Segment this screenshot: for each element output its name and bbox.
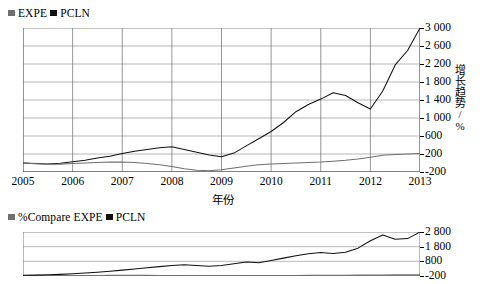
legend-swatch-sub-pcln-icon xyxy=(106,214,113,220)
legend-swatch-compare-expe-icon xyxy=(8,214,15,220)
y-tick-label: 200 xyxy=(425,148,442,160)
legend-main: EXPE PCLN xyxy=(8,7,90,19)
x-tick-label: 2007 xyxy=(100,176,144,188)
y-tick-mark xyxy=(420,276,424,277)
y-tick-mark xyxy=(420,46,424,47)
chart-page: EXPE PCLN -2002006001 0001 4001 8002 200… xyxy=(0,0,492,284)
x-tick-label: 2009 xyxy=(200,176,244,188)
y-tick-mark xyxy=(420,136,424,137)
sub-chart-plot xyxy=(23,232,420,276)
x-tick-label: 2013 xyxy=(398,176,442,188)
y-tick-mark xyxy=(420,232,424,233)
y-tick-mark xyxy=(420,172,424,173)
main-chart-svg xyxy=(23,28,420,172)
legend-label-sub-pcln: PCLN xyxy=(116,211,146,223)
y-tick-mark xyxy=(420,154,424,155)
y-tick-mark xyxy=(420,261,424,262)
y-tick-label: 1 800 xyxy=(425,241,451,253)
legend-label-pcln: PCLN xyxy=(60,7,90,19)
x-tick-label: 2010 xyxy=(249,176,293,188)
y-tick-mark xyxy=(420,247,424,248)
x-tick-label: 2006 xyxy=(51,176,95,188)
series-line-compare-expe xyxy=(23,275,420,276)
y-tick-mark xyxy=(420,28,424,29)
y-tick-label: 600 xyxy=(425,130,442,142)
legend-swatch-expe-icon xyxy=(8,10,15,16)
main-x-axis-title: 年份 xyxy=(0,191,446,207)
main-chart-plot xyxy=(23,28,420,172)
y-tick-label: 2 600 xyxy=(425,40,451,52)
y-tick-label: 2 800 xyxy=(425,226,451,238)
legend-label-expe: EXPE xyxy=(18,7,47,19)
y-tick-label: -200 xyxy=(425,270,446,282)
x-tick-label: 2012 xyxy=(348,176,392,188)
y-tick-label: 2 200 xyxy=(425,58,451,70)
y-tick-mark xyxy=(420,64,424,65)
y-tick-label: 1 400 xyxy=(425,94,451,106)
y-tick-mark xyxy=(420,82,424,83)
y-tick-label: 3 000 xyxy=(425,22,451,34)
legend-label-compare-expe: %Compare EXPE xyxy=(18,211,103,223)
legend-swatch-pcln-icon xyxy=(50,10,57,16)
y-tick-mark xyxy=(420,118,424,119)
y-tick-label: 1 000 xyxy=(425,112,451,124)
main-y-axis-title: 增长趋势/% xyxy=(452,64,468,132)
y-tick-mark xyxy=(420,100,424,101)
sub-chart-svg xyxy=(23,232,420,276)
x-tick-label: 2005 xyxy=(1,176,45,188)
legend-sub: %Compare EXPE PCLN xyxy=(8,211,145,223)
x-tick-label: 2008 xyxy=(150,176,194,188)
y-tick-label: 1 800 xyxy=(425,76,451,88)
series-line-pcln xyxy=(23,232,420,275)
y-tick-label: 800 xyxy=(425,255,442,267)
x-tick-label: 2011 xyxy=(299,176,343,188)
